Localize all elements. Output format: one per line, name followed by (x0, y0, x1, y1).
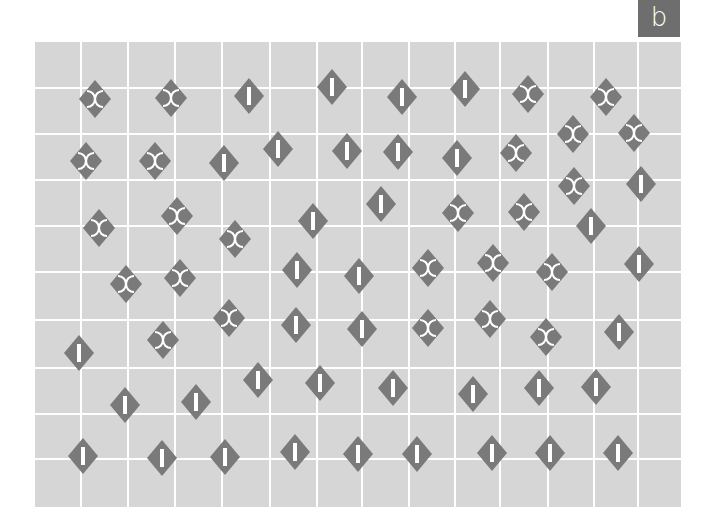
grid-background (35, 42, 681, 507)
panel-label: b (638, 0, 680, 37)
grid-lines (35, 42, 681, 507)
